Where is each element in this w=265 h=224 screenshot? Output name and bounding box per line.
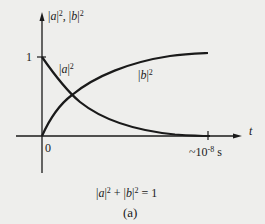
y-tick-label-one: 1 bbox=[26, 51, 32, 63]
x-axis-label: t bbox=[249, 125, 252, 137]
figure-caption: (a) bbox=[123, 207, 137, 219]
y-axis-arrow-icon bbox=[40, 12, 45, 21]
curve-label-b: |b|2 bbox=[138, 69, 153, 81]
curve-label-a: |a|2 bbox=[59, 63, 74, 75]
x-axis-arrow-icon bbox=[233, 134, 242, 139]
equation-annotation: |a|2 + |b|2 = 1 bbox=[96, 187, 157, 199]
y-axis-label: |a|2, |b|2 bbox=[48, 10, 84, 22]
figure: |a|2, |b|2 1 |a|2 |b|2 0 ~10-8 s t |a|2 … bbox=[0, 0, 265, 224]
x-tick-label-end: ~10-8 s bbox=[189, 146, 222, 158]
x-tick-label-zero: 0 bbox=[45, 142, 51, 154]
